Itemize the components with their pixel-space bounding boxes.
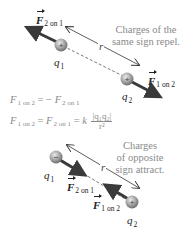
- top-charge-1-sign: +: [59, 41, 64, 50]
- top-distance-label: r: [98, 41, 104, 52]
- top-charge-1-label: q1: [54, 56, 64, 73]
- top-dashed-line: [63, 46, 125, 77]
- coulomb-law-figure: + + − + Charges of the same sign repel.: [0, 0, 185, 240]
- top-charge-2-label: q2: [122, 90, 132, 107]
- vector-equation: F1 on 2 = − F2 on 1: [10, 94, 80, 109]
- top-charge-2-sign: +: [125, 75, 130, 84]
- vector-arrow-icon: F: [67, 181, 74, 193]
- bottom-force-1on2-label: F1 on 2: [93, 199, 120, 215]
- top-force-1on2-label: F1 on 2: [148, 75, 175, 91]
- bottom-distance-label: r: [100, 162, 106, 173]
- bottom-charge-2-label: q2: [127, 214, 137, 231]
- bottom-caption: Charges of opposite sign attract.: [110, 140, 170, 176]
- coulomb-fraction: |q₁q₂| r²: [91, 112, 112, 131]
- bottom-force-2on1-arrow: [60, 160, 80, 172]
- bottom-charge-1-label: q1: [44, 169, 54, 186]
- vector-arrow-icon: F: [148, 75, 155, 87]
- bottom-charge-1-sign: −: [53, 152, 58, 162]
- vector-arrow-icon: F: [93, 199, 100, 211]
- bottom-force-2on1-label: F2 on 1: [67, 181, 94, 197]
- top-force-2on1-label: F2 on 1: [36, 14, 63, 30]
- vector-arrow-icon: F: [36, 14, 43, 26]
- magnitude-equation: F1 on 2 = F2 on 1 = k |q₁q₂| r²: [10, 112, 112, 131]
- bottom-caption-line-3: sign attract.: [116, 164, 165, 175]
- top-force-2on1-arrow: [32, 30, 57, 42]
- top-caption-line-2: same sign repel.: [112, 36, 180, 47]
- top-caption: Charges of the same sign repel.: [108, 24, 184, 48]
- bottom-caption-line-2: of opposite: [117, 152, 164, 163]
- top-caption-line-1: Charges of the: [115, 24, 176, 35]
- bottom-charge-2-sign: +: [130, 198, 135, 207]
- bottom-caption-line-1: Charges: [123, 140, 157, 151]
